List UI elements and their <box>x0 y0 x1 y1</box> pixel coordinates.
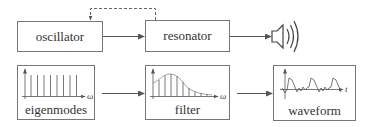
oscillator-label: oscillator <box>36 29 85 44</box>
resonator-label: resonator <box>163 28 212 43</box>
eigenmodes-block: ω eigenmodes <box>18 66 95 120</box>
eigenmodes-label: eigenmodes <box>25 102 87 117</box>
waveform-block: t waveform <box>274 66 356 121</box>
eigenmodes-omega-axis-label: ω <box>87 91 93 101</box>
filter-block: ω filter <box>146 66 230 120</box>
filter-label: filter <box>175 102 201 117</box>
filter-omega-axis-label: ω <box>220 91 226 101</box>
waveform-label: waveform <box>288 103 341 118</box>
signal-flow-diagram: oscillator resonator ω eige <box>0 0 368 127</box>
feedback-dashed-arrow <box>91 9 156 21</box>
resonator-block: resonator <box>146 21 230 52</box>
oscillator-block: oscillator <box>18 22 103 52</box>
speaker-icon <box>272 21 298 52</box>
